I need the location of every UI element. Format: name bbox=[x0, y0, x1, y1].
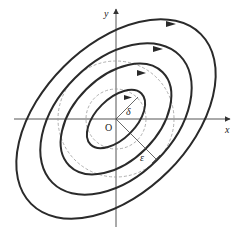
orbit-arrow-icon bbox=[124, 95, 132, 100]
epsilon-label: ε bbox=[140, 152, 144, 163]
orbit-arrow-icon bbox=[137, 70, 146, 76]
orbit-arrow-icon bbox=[153, 46, 163, 52]
orbit-arrow-icon bbox=[166, 21, 176, 27]
y-axis-label: y bbox=[103, 8, 109, 19]
x-axis-label: x bbox=[224, 124, 230, 135]
phase-portrait-diagram: y x O δ ε bbox=[0, 0, 240, 238]
origin-label: O bbox=[105, 122, 112, 133]
delta-label: δ bbox=[126, 106, 131, 117]
